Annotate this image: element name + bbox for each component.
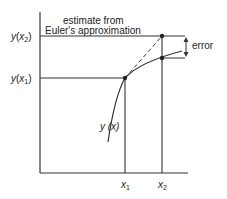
label-x2: x2 <box>158 179 167 193</box>
curve-label: y (x) <box>100 121 119 132</box>
point-true-x2 <box>160 56 164 60</box>
error-arrow-up-icon <box>184 37 189 42</box>
point-x1 <box>123 76 127 80</box>
error-label: error <box>192 40 213 51</box>
label-x1: x1 <box>121 179 130 193</box>
title-line-2: Euler's approximation <box>45 25 141 36</box>
label-y-x1: y(x1) <box>11 73 32 87</box>
error-arrow-down-icon <box>184 52 189 57</box>
point-euler-estimate <box>160 34 164 38</box>
tangent-dashed-line <box>125 36 162 78</box>
label-y-x2: y(x2) <box>11 31 32 45</box>
